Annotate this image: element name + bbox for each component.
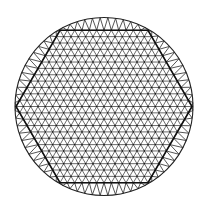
triangular-mesh-diagram — [0, 0, 207, 212]
